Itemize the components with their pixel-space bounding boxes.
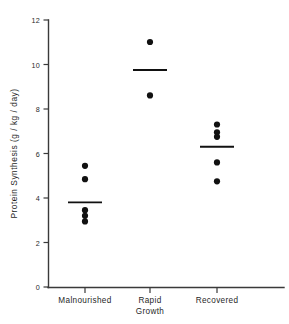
x-axis-ticks bbox=[85, 288, 217, 294]
y-tick-label-10: 10 bbox=[32, 61, 40, 70]
category-label-rapid: Rapid bbox=[138, 296, 161, 305]
y-tick-label-6: 6 bbox=[36, 150, 40, 159]
y-tick-label-0: 0 bbox=[36, 283, 40, 292]
data-point bbox=[147, 92, 153, 98]
data-point bbox=[214, 159, 220, 165]
y-tick-label-8: 8 bbox=[36, 105, 40, 114]
y-axis-ticks bbox=[44, 20, 49, 287]
data-point bbox=[147, 39, 153, 45]
series-recovered bbox=[200, 121, 234, 184]
category-label-malnourished: Malnourished bbox=[58, 296, 111, 305]
series-rapid-growth bbox=[133, 39, 167, 99]
series-malnourished bbox=[68, 163, 102, 225]
chart-canvas: 12 10 8 6 4 2 0 Malnourished Rapid Growt… bbox=[0, 0, 289, 324]
category-label-recovered: Recovered bbox=[196, 296, 239, 305]
data-point bbox=[82, 218, 88, 224]
protein-synthesis-dot-plot: 12 10 8 6 4 2 0 Malnourished Rapid Growt… bbox=[0, 0, 289, 324]
data-point bbox=[82, 213, 88, 219]
y-tick-label-12: 12 bbox=[32, 16, 40, 25]
data-point bbox=[214, 121, 220, 127]
data-point bbox=[214, 134, 220, 140]
y-tick-label-2: 2 bbox=[36, 239, 40, 248]
y-axis-label: Protein Synthesis (g / kg / day) bbox=[9, 88, 19, 218]
data-point bbox=[82, 207, 88, 213]
data-point bbox=[82, 163, 88, 169]
data-point bbox=[214, 178, 220, 184]
y-axis-tick-labels: 12 10 8 6 4 2 0 bbox=[32, 16, 40, 292]
data-point bbox=[82, 176, 88, 182]
x-axis-category-labels: Malnourished Rapid Growth Recovered bbox=[58, 296, 238, 316]
y-tick-label-4: 4 bbox=[36, 194, 40, 203]
category-label-growth: Growth bbox=[136, 307, 165, 316]
y-axis-title: Protein Synthesis (g / kg / day) bbox=[9, 88, 19, 218]
